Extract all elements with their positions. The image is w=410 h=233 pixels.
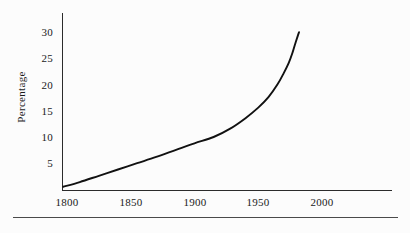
x-tick-label-1900: 1900 (184, 196, 207, 208)
x-tick-label-1950: 1950 (247, 196, 270, 208)
data-curve-percentage (63, 32, 299, 187)
y-tick-label-30: 30 (42, 26, 54, 38)
y-tick-label-20: 20 (42, 79, 54, 91)
x-tick-label-1800: 1800 (56, 196, 79, 208)
chart-canvas: 5 10 15 20 25 30 1800 1850 1900 1950 200… (0, 0, 410, 233)
x-tick-label-2000: 2000 (311, 196, 334, 208)
y-axis-title: Percentage (15, 71, 27, 122)
chart-figure: 5 10 15 20 25 30 1800 1850 1900 1950 200… (0, 0, 410, 233)
y-tick-label-5: 5 (47, 157, 53, 169)
y-tick-label-25: 25 (42, 52, 54, 64)
y-tick-label-10: 10 (42, 131, 54, 143)
x-tick-label-1850: 1850 (120, 196, 143, 208)
y-tick-label-15: 15 (42, 105, 54, 117)
